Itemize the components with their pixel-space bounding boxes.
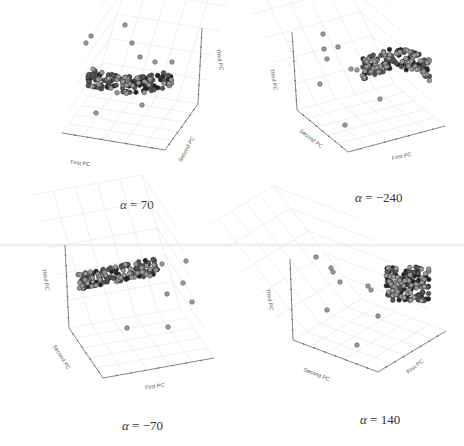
- data-point: [90, 284, 95, 289]
- z-axis-label: Third PC: [41, 268, 51, 290]
- data-point: [160, 86, 165, 91]
- data-point: [85, 281, 90, 286]
- data-point: [111, 276, 116, 281]
- outlier-point: [190, 300, 195, 305]
- outlier-point: [314, 255, 319, 260]
- outlier-point: [321, 32, 326, 37]
- data-point: [426, 297, 431, 302]
- data-point: [141, 74, 146, 79]
- data-point: [386, 266, 391, 271]
- data-point: [412, 53, 417, 58]
- outlier-point: [343, 123, 348, 128]
- outlier-point: [89, 34, 94, 39]
- outlier-point: [153, 60, 158, 65]
- data-point: [148, 267, 153, 272]
- data-point: [94, 283, 99, 288]
- data-point: [119, 276, 124, 281]
- outlier-point: [181, 281, 186, 286]
- data-point: [107, 76, 112, 81]
- data-point: [409, 59, 414, 64]
- data-point: [135, 76, 140, 81]
- outlier-point: [170, 60, 175, 65]
- data-point: [406, 64, 411, 69]
- data-point: [421, 69, 426, 74]
- outlier-point: [355, 68, 360, 73]
- data-point: [422, 284, 427, 289]
- data-point: [113, 265, 118, 270]
- data-point: [395, 289, 400, 294]
- outlier-point: [94, 111, 99, 116]
- outlier-point: [138, 55, 143, 60]
- data-point: [372, 59, 377, 64]
- scatter-panel-2: First PCSecond PCThird PC: [31, 175, 214, 390]
- data-point: [136, 81, 141, 86]
- data-point: [404, 56, 409, 61]
- outlier-point: [318, 82, 323, 87]
- z-axis-label: Third PC: [215, 48, 225, 70]
- data-point: [108, 266, 113, 271]
- data-point: [155, 73, 160, 78]
- data-point: [365, 60, 370, 65]
- data-point: [121, 268, 126, 273]
- data-point: [123, 75, 128, 80]
- data-point: [166, 73, 171, 78]
- outlier-point: [355, 343, 360, 348]
- data-point: [418, 59, 423, 64]
- data-point: [108, 86, 113, 91]
- data-point: [386, 290, 391, 295]
- scatter-panel-1: First PCSecond PCThird PC: [241, 0, 445, 161]
- data-point: [142, 90, 147, 95]
- data-point: [381, 50, 386, 55]
- outlier-point: [322, 47, 327, 52]
- data-point: [161, 71, 166, 76]
- data-point: [167, 81, 172, 86]
- data-point: [88, 270, 93, 275]
- data-point: [135, 271, 140, 276]
- data-point: [395, 282, 400, 287]
- outlier-point: [123, 23, 128, 28]
- data-point: [419, 298, 424, 303]
- outlier-point: [130, 41, 135, 46]
- z-axis-label: Third PC: [269, 68, 279, 90]
- data-point: [124, 83, 129, 88]
- x-axis-label: First PC: [391, 151, 412, 161]
- data-point: [415, 67, 420, 72]
- data-point: [144, 263, 149, 268]
- data-point: [405, 48, 410, 53]
- x-axis-label: First PC: [144, 382, 165, 391]
- outlier-point: [366, 284, 371, 289]
- data-point: [394, 266, 399, 271]
- data-point: [100, 70, 105, 75]
- data-point: [391, 298, 396, 303]
- data-point: [414, 282, 419, 287]
- data-point: [408, 272, 413, 277]
- data-point: [152, 263, 157, 268]
- data-point: [426, 267, 431, 272]
- outlier-point: [376, 314, 381, 319]
- data-point: [116, 75, 121, 80]
- data-point: [128, 267, 133, 272]
- outlier-point: [378, 97, 383, 102]
- data-point: [127, 271, 132, 276]
- data-point: [90, 276, 95, 281]
- y-axis-label: Second PC: [298, 127, 324, 149]
- data-point: [387, 53, 392, 58]
- outlier-point: [398, 50, 403, 55]
- data-point: [96, 77, 101, 82]
- data-point: [408, 265, 413, 270]
- x-axis-label: First PC: [405, 358, 424, 375]
- data-point: [154, 268, 159, 273]
- data-point: [102, 270, 107, 275]
- data-point: [384, 65, 389, 70]
- data-point: [78, 272, 83, 277]
- data-point: [363, 69, 368, 74]
- data-point: [148, 77, 153, 82]
- y-axis-label: Second PC: [303, 366, 331, 382]
- data-point: [408, 291, 413, 296]
- data-point: [422, 277, 427, 282]
- data-point: [376, 69, 381, 74]
- data-point: [83, 271, 88, 276]
- data-point: [152, 88, 157, 93]
- data-point: [78, 280, 83, 285]
- outlier-point: [325, 57, 330, 62]
